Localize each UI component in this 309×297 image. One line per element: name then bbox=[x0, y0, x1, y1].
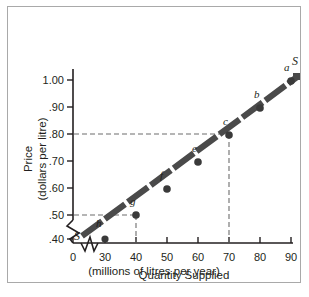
x-tick-label-90: 90 bbox=[285, 251, 297, 263]
x-tick-label-50: 50 bbox=[161, 251, 173, 263]
y-axis-title-line1: Price bbox=[22, 146, 34, 172]
x-axis-title-line2: (millions of litres per year) bbox=[8, 265, 300, 277]
x-tick-label-80: 80 bbox=[254, 251, 266, 263]
supply-curve-line bbox=[82, 77, 297, 236]
data-points bbox=[101, 77, 294, 242]
x-tick-label-0: 0 bbox=[70, 251, 76, 263]
x-tick-label-60: 60 bbox=[192, 251, 204, 263]
x-tick-label-40: 40 bbox=[130, 251, 142, 263]
y-axis-title-line2: (dollars per litre) bbox=[36, 117, 48, 200]
point-label-e: e bbox=[192, 142, 197, 154]
point-label-g: g bbox=[130, 195, 136, 207]
marker-point-c bbox=[225, 131, 233, 139]
y-axis-ticks bbox=[67, 80, 73, 220]
marker-point-b bbox=[256, 104, 264, 112]
marker-point-h bbox=[101, 235, 108, 242]
x-tick-labels: 0 30 40 50 60 70 80 90 bbox=[70, 251, 297, 263]
point-label-b: b bbox=[254, 88, 260, 100]
marker-point-f bbox=[163, 185, 171, 193]
y-tick-label-0.90: .90 bbox=[49, 101, 64, 113]
point-labels: h g f e c b a bbox=[96, 61, 290, 229]
curve-label-end-s: S bbox=[292, 54, 298, 68]
curve-label-start-s: S bbox=[74, 229, 80, 243]
marker-point-a bbox=[287, 77, 295, 85]
y-tick-label-0.40: .40 bbox=[49, 233, 64, 245]
x-axis-break-icon bbox=[81, 237, 98, 251]
supply-curve bbox=[82, 73, 300, 236]
x-tick-label-30: 30 bbox=[99, 251, 111, 263]
point-label-h: h bbox=[96, 217, 102, 229]
figure-frame: 1.00 .90 .80 .70 .60 .50 .40 0 30 40 50 … bbox=[7, 6, 301, 283]
point-label-a: a bbox=[284, 61, 290, 73]
point-label-c: c bbox=[223, 115, 228, 127]
marker-point-g bbox=[132, 211, 140, 219]
supply-curve-chart: 1.00 .90 .80 .70 .60 .50 .40 0 30 40 50 … bbox=[8, 7, 300, 282]
y-tick-label-0.70: .70 bbox=[49, 155, 64, 167]
y-tick-label-0.80: .80 bbox=[49, 128, 64, 140]
y-tick-label-0.50: .50 bbox=[49, 209, 64, 221]
y-axis-title: Price (dollars per litre) bbox=[22, 117, 48, 200]
x-tick-label-70: 70 bbox=[223, 251, 235, 263]
marker-point-e bbox=[194, 158, 202, 166]
y-tick-label-1.00: 1.00 bbox=[43, 74, 64, 86]
y-tick-label-0.60: .60 bbox=[49, 182, 64, 194]
